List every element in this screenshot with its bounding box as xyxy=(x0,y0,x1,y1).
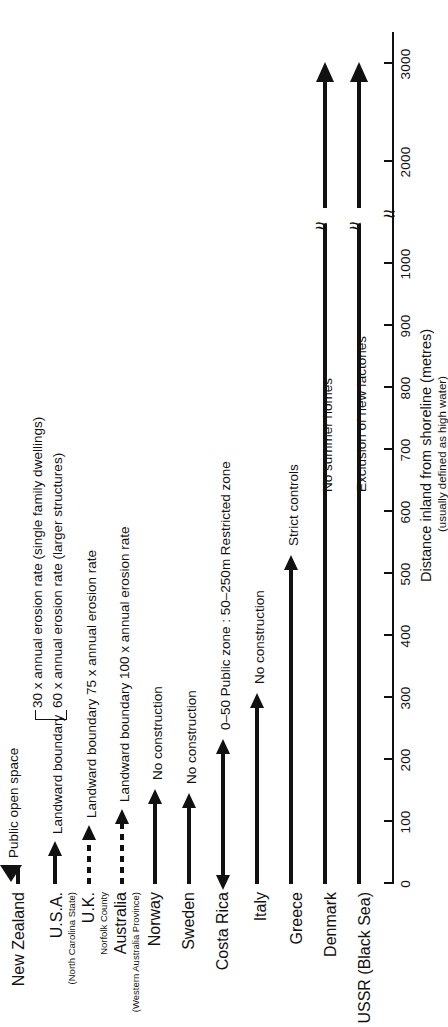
annotation-usa-line2: 60 x annual erosion rate (larger structu… xyxy=(50,453,65,708)
annotation-new-zealand: Public open space xyxy=(6,748,21,858)
annotation-denmark: No summer homes xyxy=(320,378,335,492)
axis-tick-1000 xyxy=(384,262,392,264)
axis-title: Distance inland from shoreline (metres) xyxy=(418,329,434,582)
axis-label-300: 300 xyxy=(398,678,413,718)
annotation-ussr: Exclusion of new factories xyxy=(354,336,369,492)
category-label-denmark: Denmark xyxy=(322,892,340,1027)
annotation-usa-prefix: Landward boundary xyxy=(50,715,65,834)
annotation-australia: Landward boundary 100 x annual erosion r… xyxy=(117,527,132,802)
axis-label-800: 800 xyxy=(398,368,413,408)
bar-break-icon-denmark: ≈ xyxy=(315,215,327,237)
bar-ussr xyxy=(357,224,361,884)
category-label-ussr: USSR (Black Sea) xyxy=(356,892,374,1027)
bar-arrowhead-costa-rica-start xyxy=(216,875,230,890)
bar-sweden xyxy=(187,804,191,884)
axis-label-0: 0 xyxy=(398,864,413,904)
axis-tick-0 xyxy=(384,882,392,884)
category-label-sweden: Sweden xyxy=(180,892,198,1027)
annotation-italy: No construction xyxy=(252,590,267,684)
annotation-norway: No construction xyxy=(150,686,165,780)
bar-denmark-after-break xyxy=(323,78,327,208)
axis-tick-100 xyxy=(384,820,392,822)
annotation-usa-bracket xyxy=(35,710,67,720)
bar-arrowhead-italy xyxy=(250,693,264,708)
bar-australia xyxy=(120,820,124,884)
axis-label-900: 900 xyxy=(398,306,413,346)
category-label-australia: Australia xyxy=(112,892,130,1027)
bar-italy xyxy=(255,704,259,884)
bar-arrowhead-denmark xyxy=(316,62,334,82)
bar-arrowhead-sweden xyxy=(182,793,196,808)
category-label-usa: U.S.A. xyxy=(48,892,66,1027)
category-sublabel-uk: Norfolk County xyxy=(98,892,109,1027)
axis-break-icon: ≈ xyxy=(383,203,395,225)
category-sublabel-australia: (Western Australia Province) xyxy=(130,892,141,1027)
bar-arrowhead-greece xyxy=(284,555,298,570)
bar-break-icon-ussr: ≈ xyxy=(349,215,361,237)
axis-baseline xyxy=(392,32,394,884)
bar-arrowhead-australia xyxy=(115,809,129,824)
bar-arrowhead-norway xyxy=(148,789,162,804)
annotation-uk: Landward boundary 75 x annual erosion ra… xyxy=(84,550,99,818)
axis-tick-400 xyxy=(384,634,392,636)
bar-usa xyxy=(53,852,57,884)
axis-tick-900 xyxy=(384,324,392,326)
bar-costa-rica xyxy=(221,750,225,878)
bar-marker-new-zealand xyxy=(0,865,22,882)
annotation-greece: Strict controls xyxy=(286,464,301,546)
category-label-italy: Italy xyxy=(252,892,270,1027)
annotation-sweden: No construction xyxy=(184,690,199,784)
axis-label-100: 100 xyxy=(398,802,413,842)
bar-arrowhead-ussr xyxy=(350,62,368,82)
bar-arrowhead-uk xyxy=(82,825,96,840)
bar-denmark xyxy=(323,224,327,884)
axis-label-2000: 2000 xyxy=(398,140,413,184)
category-label-greece: Greece xyxy=(288,892,306,1027)
axis-label-1000: 1000 xyxy=(398,242,413,286)
axis-tick-500 xyxy=(384,572,392,574)
axis-label-200: 200 xyxy=(398,740,413,780)
axis-label-600: 600 xyxy=(398,492,413,532)
axis-tick-800 xyxy=(384,386,392,388)
bar-norway xyxy=(153,800,157,884)
category-label-uk: U.K. xyxy=(80,892,98,1027)
annotation-costa-rica: 0–50 Public zone : 50–250m Restricted zo… xyxy=(218,461,233,730)
axis-subtitle: (usually defined as high water) xyxy=(436,376,448,532)
axis-tick-3000 xyxy=(384,62,392,64)
bar-arrowhead-costa-rica-end xyxy=(216,739,230,754)
axis-tick-300 xyxy=(384,696,392,698)
axis-label-400: 400 xyxy=(398,616,413,656)
axis-tick-2000 xyxy=(384,160,392,162)
axis-label-700: 700 xyxy=(398,430,413,470)
category-label-norway: Norway xyxy=(146,892,164,1027)
axis-label-500: 500 xyxy=(398,554,413,594)
bar-greece xyxy=(289,566,293,884)
bar-ussr-after-break xyxy=(357,78,361,208)
bar-arrowhead-usa xyxy=(48,841,62,856)
axis-tick-700 xyxy=(384,448,392,450)
axis-tick-600 xyxy=(384,510,392,512)
bar-uk xyxy=(87,836,91,884)
category-label-costa-rica: Costa Rica xyxy=(214,892,232,1027)
annotation-usa-line1: 30 x annual erosion rate (single family … xyxy=(30,417,45,708)
category-label-new-zealand: New Zealand xyxy=(10,892,28,1027)
axis-tick-200 xyxy=(384,758,392,760)
category-sublabel-usa: (North Carolina State) xyxy=(66,892,77,1027)
axis-label-3000: 3000 xyxy=(398,42,413,86)
